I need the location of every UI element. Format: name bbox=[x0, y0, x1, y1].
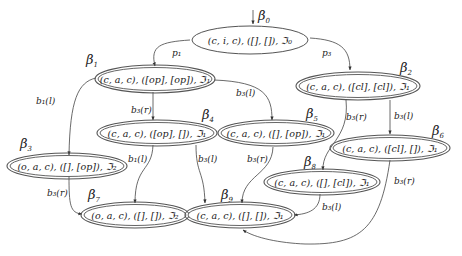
node-beta0-name: β0 bbox=[257, 8, 271, 25]
node-beta7-label: (o, a, c), ([], []), ℑ₂ bbox=[91, 210, 179, 221]
edge-label-b3l-4-9: b₃(l) bbox=[198, 154, 218, 164]
node-beta7[interactable]: (o, a, c), ([], []), ℑ₂ β7 bbox=[81, 187, 189, 228]
node-beta4[interactable]: (c, a, c), ([op], []), ℑ₁ β4 bbox=[97, 107, 217, 146]
node-beta5-name: β5 bbox=[305, 106, 319, 123]
edge-label-b3r-2-8: b₃(r) bbox=[346, 112, 367, 122]
edge-beta3-beta7 bbox=[69, 176, 82, 214]
node-beta8-label: (c, a, c), ([], [cl]), ℑ₁ bbox=[274, 177, 369, 188]
node-beta2[interactable]: (c, a, c), ([cl], [cl]), ℑ₁ β2 bbox=[296, 60, 420, 100]
edge-label-b3r-6-9: b₃(r) bbox=[394, 176, 415, 186]
edge-label-b3r-3-7: b₃(r) bbox=[47, 188, 68, 198]
node-beta4-label: (c, a, c), ([op], []), ℑ₁ bbox=[108, 128, 207, 139]
node-beta0-label: (c, i, c), ([], []), ℑ₀ bbox=[208, 35, 293, 46]
node-beta9-name: β9 bbox=[220, 187, 234, 204]
node-beta1[interactable]: (c, a, c), ([op], [op]), ℑ₁ β1 bbox=[85, 52, 215, 93]
node-beta2-label: (c, a, c), ([cl], [cl]), ℑ₁ bbox=[306, 81, 410, 92]
node-beta8-name: β8 bbox=[303, 154, 317, 171]
node-beta3-name: β3 bbox=[19, 136, 33, 153]
node-beta1-label: (c, a, c), ([op], [op]), ℑ₁ bbox=[100, 74, 211, 85]
node-beta6-label: (c, a, c), ([cl], []), ℑ₁ bbox=[342, 143, 437, 154]
node-beta5[interactable]: (c, a, c), ([], [op]), ℑ₁ β5 bbox=[218, 106, 334, 146]
node-beta1-name: β1 bbox=[85, 52, 98, 69]
node-beta0[interactable]: (c, i, c), ([], []), ℑ₀ β0 bbox=[192, 8, 308, 54]
edge-label-b3r-1-4: b₃(r) bbox=[131, 105, 152, 115]
edge-beta1-beta3 bbox=[69, 78, 96, 155]
edge-label-p3: p₃ bbox=[322, 48, 332, 58]
node-beta3-label: (o, a, c), ([], [op]), ℑ₂ bbox=[17, 161, 116, 172]
node-beta2-name: β2 bbox=[399, 60, 413, 77]
state-graph: p₁ p₃ b₁(l) b₃(r) b₃(l) b₃(r) b₃(l) b₃(r… bbox=[0, 0, 462, 256]
edge-beta8-beta9 bbox=[294, 194, 320, 215]
node-beta3[interactable]: (o, a, c), ([], [op]), ℑ₂ β3 bbox=[7, 136, 127, 179]
node-beta6-name: β6 bbox=[431, 123, 445, 140]
node-beta7-name: β7 bbox=[87, 187, 101, 204]
node-beta5-label: (c, a, c), ([], [op]), ℑ₁ bbox=[227, 128, 326, 139]
node-beta4-name: β4 bbox=[201, 107, 214, 124]
node-beta9-label: (c, a, c), ([], []), ℑ₁ bbox=[197, 210, 284, 221]
edge-label-b3l-1-5: b₃(l) bbox=[236, 88, 256, 98]
edge-label-b1l-4-7: b₁(l) bbox=[128, 154, 148, 164]
edge-label-b1l-1-3: b₁(l) bbox=[36, 96, 56, 106]
edge-label-b3l-8-9: b₃(l) bbox=[322, 202, 342, 212]
edge-beta1-beta5 bbox=[214, 80, 272, 120]
edge-label-b3r-5-9: b₃(r) bbox=[247, 154, 268, 164]
node-beta9[interactable]: (c, a, c), ([], []), ℑ₁ β9 bbox=[185, 187, 295, 228]
edge-label-b3l-2-6: b₃(l) bbox=[394, 111, 414, 121]
edge-label-p1: p₁ bbox=[172, 48, 181, 58]
